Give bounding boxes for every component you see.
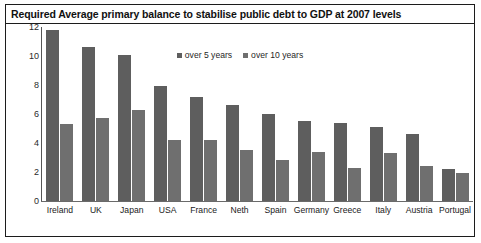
bar-series1 [442,169,455,201]
figure-root: Required Average primary balance to stab… [0,0,481,243]
y-axis-tick-label: 4 [17,138,39,148]
bar-series1 [154,86,167,201]
x-axis-tick-label: Greece [333,205,361,215]
bar-group [222,27,258,201]
bar-series1 [406,134,419,201]
bar-group [114,27,150,201]
y-axis: 024681012 [17,24,39,237]
x-axis: IrelandUKJapanUSAFranceNethSpainGermanyG… [42,205,473,225]
bar-group [365,27,401,201]
x-axis-tick-label: Portugal [439,205,471,215]
x-axis-tick-label: USA [159,205,177,215]
x-axis-tick-label: Ireland [47,205,73,215]
bar-group [329,27,365,201]
bar-series2 [276,160,289,201]
bar-series1 [46,30,59,201]
bar-group [78,27,114,201]
y-axis-tick-label: 10 [17,51,39,61]
bar-series1 [298,121,311,201]
bar-series2 [456,173,469,201]
x-axis-tick-label: France [190,205,217,215]
x-axis-tick-label: Germany [294,205,329,215]
bar-series2 [60,124,73,201]
bar-group [437,27,473,201]
bar-series2 [168,140,181,201]
x-axis-tick-label: Neth [230,205,248,215]
x-axis-tick-label: Austria [406,205,433,215]
bar-group [42,27,78,201]
y-axis-tick-label: 2 [17,167,39,177]
plot-area: 024681012 IrelandUKJapanUSAFranceNethSpa… [5,24,475,237]
bar-series2 [348,168,361,201]
bar-series1 [334,123,347,201]
bar-series1 [262,114,275,201]
bar-series-container [42,27,473,201]
y-axis-tick-label: 12 [17,22,39,32]
bar-group [150,27,186,201]
bar-series2 [312,152,325,201]
bar-series2 [96,118,109,201]
x-axis-tick-label: Spain [264,205,286,215]
bar-series1 [82,47,95,201]
bar-group [186,27,222,201]
bar-group [258,27,294,201]
chart-title: Required Average primary balance to stab… [6,8,401,20]
bar-series1 [226,105,239,201]
bar-series2 [204,140,217,201]
bar-series2 [132,110,145,201]
bar-group [293,27,329,201]
bar-series2 [240,150,253,201]
y-axis-tick-label: 8 [17,80,39,90]
bar-group [401,27,437,201]
bar-series2 [384,153,397,201]
chart-title-box: Required Average primary balance to stab… [5,4,475,24]
y-axis-tick-label: 0 [17,196,39,206]
bar-series1 [118,55,131,201]
x-axis-tick-label: Japan [120,205,143,215]
x-axis-tick-label: Italy [375,205,391,215]
bar-series1 [190,97,203,201]
y-axis-tick-label: 6 [17,109,39,119]
x-axis-line [41,201,473,202]
bar-series2 [420,166,433,201]
bar-series1 [370,127,383,201]
x-axis-tick-label: UK [90,205,102,215]
